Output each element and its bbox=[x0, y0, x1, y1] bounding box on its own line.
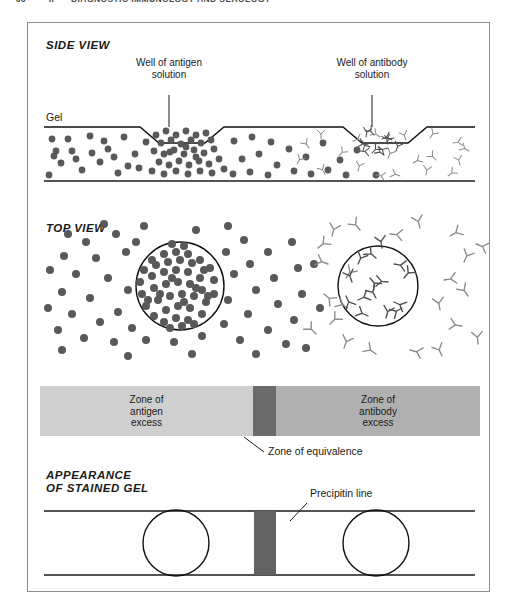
precipitin-leader bbox=[290, 503, 307, 521]
figure-frame: SIDE VIEW Well of antigen solution Well … bbox=[27, 22, 490, 592]
page-folio: 66 bbox=[0, 0, 26, 4]
stained-antibody-well bbox=[343, 510, 409, 576]
zone-bar: Zone of antigen excess Zone of antibody … bbox=[40, 386, 480, 436]
zone-antigen-excess: Zone of antigen excess bbox=[40, 386, 253, 436]
zone-antibody-excess-label: Zone of antibody excess bbox=[276, 394, 480, 429]
antibody-well-circle bbox=[338, 246, 418, 326]
gel-top-surface bbox=[44, 127, 475, 143]
part-number: II bbox=[49, 0, 55, 4]
side-view-diagram bbox=[28, 23, 491, 208]
precipitin-band bbox=[254, 511, 276, 575]
antigen-particles bbox=[46, 128, 380, 179]
antigen-well-circle bbox=[136, 242, 224, 330]
zone-equivalence-caption: Zone of equivalence bbox=[268, 445, 363, 457]
side-view-panel: SIDE VIEW Well of antigen solution Well … bbox=[28, 23, 489, 208]
antigen-particles-top bbox=[44, 220, 324, 360]
zone-antigen-excess-label: Zone of antigen excess bbox=[40, 394, 253, 429]
antibody-well-complex bbox=[358, 126, 403, 159]
antibody-symbols-top bbox=[304, 215, 490, 359]
running-head: 66 II DIAGNOSTIC IMMUNOLOGY AND SEROLOGY bbox=[0, 0, 514, 6]
antibody-well-lattice bbox=[341, 236, 415, 321]
top-view-panel: TOP VIEW bbox=[28, 208, 489, 378]
zone-equivalence-band bbox=[253, 386, 276, 436]
stained-gel-panel: APPEARANCE OF STAINED GEL Precipitin lin… bbox=[28, 469, 489, 593]
zone-antibody-excess: Zone of antibody excess bbox=[276, 386, 480, 436]
top-view-diagram bbox=[28, 208, 491, 378]
stained-gel-diagram bbox=[28, 469, 491, 593]
chapter-title: DIAGNOSTIC IMMUNOLOGY AND SEROLOGY bbox=[71, 0, 271, 4]
stained-antigen-well bbox=[143, 510, 209, 576]
